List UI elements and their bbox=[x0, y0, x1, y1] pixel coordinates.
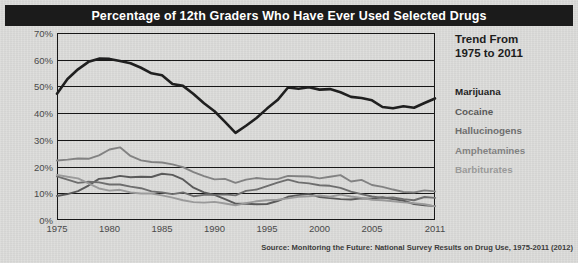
chart-container: Percentage of 12th Graders Who Have Ever… bbox=[0, 0, 578, 263]
x-axis-tick-label: 2000 bbox=[309, 223, 330, 234]
y-axis-tick-label: 10% bbox=[7, 188, 53, 199]
y-axis-labels: 0%10%20%30%40%50%60%70% bbox=[3, 33, 53, 220]
x-axis-tick-label: 1995 bbox=[256, 223, 277, 234]
chart-title-bar: Percentage of 12th Graders Who Have Ever… bbox=[5, 5, 573, 26]
y-axis-tick-label: 40% bbox=[7, 108, 53, 119]
plot-area bbox=[57, 33, 435, 220]
x-axis-tick-label: 1980 bbox=[99, 223, 120, 234]
x-axis-tick-label: 2005 bbox=[361, 223, 382, 234]
legend: Trend From 1975 to 2011 MarijuanaCocaine… bbox=[455, 33, 573, 180]
series-line-amphetamines bbox=[57, 147, 435, 192]
y-axis-tick-label: 70% bbox=[7, 28, 53, 39]
legend-item-amphetamines[interactable]: Amphetamines bbox=[455, 141, 573, 161]
legend-item-marijuana[interactable]: Marijuana bbox=[455, 82, 573, 102]
x-axis-tick-label: 1990 bbox=[204, 223, 225, 234]
legend-item-cocaine[interactable]: Cocaine bbox=[455, 102, 573, 122]
series-lines bbox=[57, 33, 435, 220]
legend-heading-line1: Trend From bbox=[455, 33, 518, 45]
legend-items: MarijuanaCocaineHallucinogensAmphetamine… bbox=[455, 82, 573, 180]
x-axis-tick-label: 1985 bbox=[151, 223, 172, 234]
y-axis-tick-label: 20% bbox=[7, 161, 53, 172]
y-axis-tick-label: 50% bbox=[7, 81, 53, 92]
legend-item-hallucinogens[interactable]: Hallucinogens bbox=[455, 121, 573, 141]
legend-heading-line2: 1975 to 2011 bbox=[455, 47, 523, 59]
series-line-marijuana bbox=[57, 59, 435, 133]
y-axis-tick-label: 60% bbox=[7, 54, 53, 65]
x-axis-labels: 19751980198519901995200020052011 bbox=[57, 223, 435, 237]
y-axis-tick-label: 30% bbox=[7, 134, 53, 145]
source-citation: Source: Monitoring the Future: National … bbox=[0, 243, 573, 252]
legend-item-barbiturates[interactable]: Barbiturates bbox=[455, 160, 573, 180]
x-axis-tick-label: 2011 bbox=[425, 223, 445, 234]
legend-heading: Trend From 1975 to 2011 bbox=[455, 33, 573, 60]
x-axis-tick-label: 1975 bbox=[46, 223, 67, 234]
page-title: Percentage of 12th Graders Who Have Ever… bbox=[91, 9, 486, 23]
